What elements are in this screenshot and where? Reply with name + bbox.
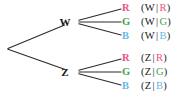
branch-line [8, 25, 65, 49]
branch-line [79, 9, 121, 20]
leaf-letter-b-2: B [122, 31, 134, 42]
cond-first-term: Z [145, 80, 152, 91]
leaf-letter-r-3: R [122, 53, 134, 64]
cond-second-term: B [159, 30, 166, 41]
conditional-label-5: (Z|B) [141, 81, 167, 92]
cond-close-paren: ) [167, 2, 171, 13]
cond-first-term: W [145, 2, 155, 13]
conditional-label-2: (W|B) [141, 31, 171, 42]
conditional-label-3: (Z|R) [141, 53, 167, 64]
branch-line [79, 59, 121, 70]
branch-line [79, 74, 121, 85]
cond-first-term: W [145, 16, 155, 27]
leaf-letter-g-1: G [122, 17, 134, 28]
cond-second-term: R [159, 2, 166, 13]
cond-close-paren: ) [163, 80, 167, 91]
cond-first-term: Z [145, 52, 152, 63]
cond-close-paren: ) [164, 66, 168, 77]
node-z: Z [58, 67, 72, 78]
cond-first-term: Z [145, 66, 152, 77]
node-w: W [58, 17, 72, 28]
branch-line [8, 49, 65, 69]
cond-close-paren: ) [163, 52, 167, 63]
branch-line [79, 24, 121, 35]
cond-close-paren: ) [167, 16, 171, 27]
conditional-label-4: (Z|G) [141, 67, 168, 78]
leaf-letter-g-4: G [122, 67, 134, 78]
conditional-label-0: (W|R) [141, 3, 171, 14]
conditional-label-1: (W|G) [141, 17, 171, 28]
cond-second-term: G [156, 66, 164, 77]
leaf-letter-b-5: B [122, 81, 134, 92]
leaf-letter-r-0: R [122, 3, 134, 14]
cond-first-term: W [145, 30, 155, 41]
cond-close-paren: ) [167, 30, 171, 41]
probability-tree-figure: W Z R(W|R)G(W|G)B(W|B)R(Z|R)G(Z|G)B(Z|B) [0, 0, 188, 108]
